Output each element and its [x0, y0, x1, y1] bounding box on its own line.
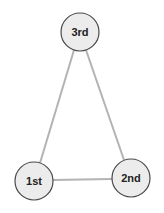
node-2nd: 2nd — [112, 159, 150, 197]
edge-1st-2nd — [53, 179, 112, 180]
node-2nd-label: 2nd — [121, 172, 141, 184]
edge-3rd-2nd — [86, 50, 124, 160]
triangle-diagram: 3rd 1st 2nd — [0, 0, 164, 213]
node-3rd: 3rd — [61, 13, 99, 51]
node-1st: 1st — [15, 162, 53, 200]
edge-1st-3rd — [40, 50, 74, 163]
node-3rd-label: 3rd — [71, 26, 88, 38]
node-1st-label: 1st — [26, 175, 42, 187]
